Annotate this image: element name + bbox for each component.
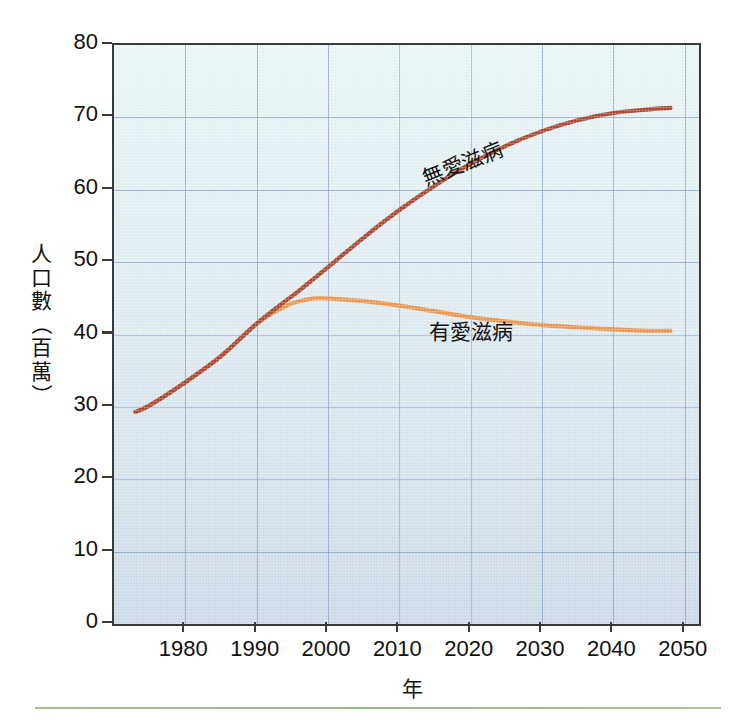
line-no-aids [135, 108, 670, 412]
x-tick-label: 1980 [143, 638, 223, 660]
y-tick-mark [102, 549, 112, 551]
y-axis-title-char: 口 [26, 266, 56, 290]
y-tick-label: 60 [42, 176, 98, 198]
y-tick-label: 80 [42, 31, 98, 53]
y-tick-mark [102, 259, 112, 261]
y-tick-mark [102, 404, 112, 406]
x-tick-mark [610, 622, 612, 632]
x-tick-label: 1990 [215, 638, 295, 660]
annotation-with-aids: 有愛滋病 [429, 315, 513, 345]
x-tick-label: 2020 [429, 638, 509, 660]
x-tick-mark [682, 622, 684, 632]
x-axis-title-text: 年 [402, 677, 423, 700]
y-tick-mark [102, 476, 112, 478]
x-tick-label: 2050 [643, 638, 723, 660]
y-tick-mark [102, 331, 112, 333]
x-tick-mark [539, 622, 541, 632]
x-axis-title: 年 [0, 672, 754, 702]
y-tick-label: 0 [42, 610, 98, 632]
y-tick-mark [102, 621, 112, 623]
y-axis-title-char: ） [29, 380, 53, 410]
plot-area [112, 43, 701, 626]
x-tick-label: 2000 [286, 638, 366, 660]
x-tick-mark [396, 622, 398, 632]
y-tick-label: 70 [42, 103, 98, 125]
y-tick-mark [102, 187, 112, 189]
y-axis-title-char: 人 [26, 242, 56, 266]
y-tick-label: 20 [42, 465, 98, 487]
x-tick-mark [468, 622, 470, 632]
x-tick-label: 2030 [500, 638, 580, 660]
x-tick-mark [254, 622, 256, 632]
population-projection-chart: 01020304050607080 人口數（百萬） 19801990200020… [0, 0, 754, 725]
line-with-aids [135, 298, 670, 412]
y-tick-mark [102, 114, 112, 116]
y-axis-title-char: （ [29, 309, 53, 339]
y-tick-label: 10 [42, 538, 98, 560]
y-tick-mark [102, 42, 112, 44]
footer-rule [35, 707, 721, 709]
y-axis-title: 人口數（百萬） [26, 242, 56, 407]
x-tick-mark [325, 622, 327, 632]
series-curves [114, 45, 699, 624]
x-tick-label: 2040 [571, 638, 651, 660]
x-tick-mark [182, 622, 184, 632]
x-tick-label: 2010 [357, 638, 437, 660]
